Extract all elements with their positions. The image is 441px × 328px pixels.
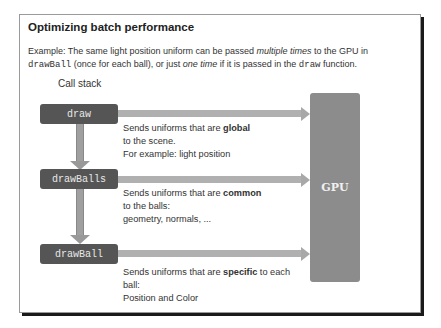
arrow-head-down-icon bbox=[70, 235, 90, 244]
note-text: ball: bbox=[123, 279, 290, 292]
desc-text: function. bbox=[320, 59, 357, 69]
call-stack-label: Call stack bbox=[58, 78, 101, 89]
function-box-drawball: drawBall bbox=[40, 244, 118, 264]
note-keyword: global bbox=[223, 123, 250, 133]
desc-code: draw bbox=[299, 60, 321, 70]
note-common: Sends uniforms that are common to the ba… bbox=[123, 187, 261, 226]
arrow-draw-to-drawballs bbox=[76, 124, 84, 162]
desc-text: Example: The same light position uniform… bbox=[28, 46, 256, 56]
desc-text: to the GPU in bbox=[311, 46, 368, 56]
desc-emphasis: one time bbox=[183, 59, 218, 69]
note-keyword: specific bbox=[223, 267, 257, 277]
desc-code: drawBall bbox=[28, 60, 71, 70]
arrow-drawballs-to-drawball bbox=[76, 188, 84, 236]
note-text: to the scene. bbox=[123, 135, 250, 148]
note-text: geometry, normals, ... bbox=[123, 213, 261, 226]
note-text: to the balls: bbox=[123, 200, 261, 213]
arrow-head-right-icon bbox=[301, 107, 310, 121]
desc-text: if it is passed in the bbox=[217, 59, 299, 69]
note-keyword: common bbox=[223, 188, 261, 198]
note-text: For example: light position bbox=[123, 148, 250, 161]
slide-title: Optimizing batch performance bbox=[28, 21, 194, 33]
note-text: Sends uniforms that are bbox=[123, 188, 223, 198]
note-text: Sends uniforms that are bbox=[123, 123, 223, 133]
arrow-head-right-icon bbox=[301, 173, 310, 187]
desc-emphasis: multiple times bbox=[256, 46, 311, 56]
note-specific: Sends uniforms that are specific to each… bbox=[123, 266, 290, 305]
gpu-box: GPU bbox=[310, 93, 360, 282]
note-text: Sends uniforms that are bbox=[123, 267, 223, 277]
note-text: Position and Color bbox=[123, 292, 290, 305]
arrow-drawballs-to-gpu bbox=[118, 176, 302, 183]
arrow-draw-to-gpu bbox=[118, 110, 302, 117]
note-global: Sends uniforms that are global to the sc… bbox=[123, 122, 250, 161]
arrow-head-right-icon bbox=[301, 247, 310, 261]
function-box-drawballs: drawBalls bbox=[40, 169, 118, 189]
arrow-drawball-to-gpu bbox=[118, 250, 302, 257]
slide-description: Example: The same light position uniform… bbox=[28, 45, 413, 72]
note-text: to each bbox=[257, 267, 290, 277]
function-box-draw: draw bbox=[40, 104, 118, 124]
desc-text: (once for each ball), or just bbox=[71, 59, 183, 69]
